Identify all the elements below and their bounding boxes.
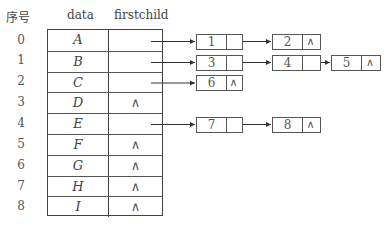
- node-child: 7: [197, 118, 227, 132]
- list-node: 5 ∧: [331, 55, 381, 71]
- node-child: 3: [197, 56, 227, 70]
- node-next: [225, 118, 242, 132]
- list-node: 8 ∧: [272, 117, 321, 133]
- node-child: 4: [273, 56, 303, 70]
- pointer-arrows: [0, 0, 389, 227]
- node-child: 8: [273, 118, 303, 132]
- node-next: ∧: [360, 56, 380, 70]
- list-node: 1: [196, 34, 243, 50]
- node-child: 2: [273, 35, 303, 49]
- node-child: 5: [332, 56, 362, 70]
- list-node: 4: [272, 55, 321, 71]
- list-node: 2 ∧: [272, 34, 321, 50]
- node-next: [301, 56, 320, 70]
- node-next: ∧: [301, 118, 320, 132]
- node-next: [225, 56, 242, 70]
- list-node: 3: [196, 55, 243, 71]
- node-next: [225, 35, 242, 49]
- node-next: ∧: [225, 76, 242, 90]
- node-child: 1: [197, 35, 227, 49]
- list-node: 7: [196, 117, 243, 133]
- list-node: 6 ∧: [196, 75, 243, 91]
- node-next: ∧: [301, 35, 320, 49]
- node-child: 6: [197, 76, 227, 90]
